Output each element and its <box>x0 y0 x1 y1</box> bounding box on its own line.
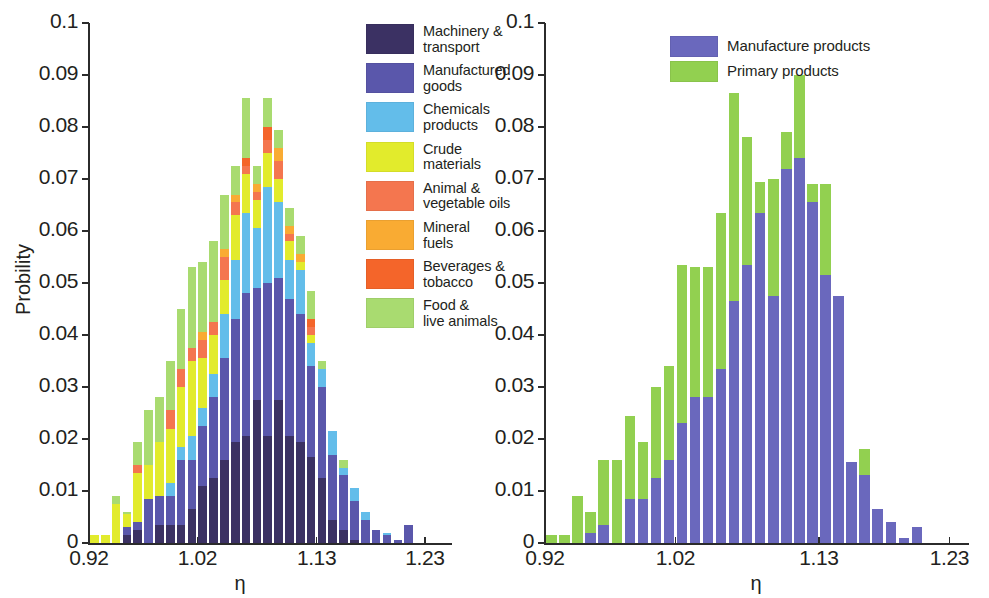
bar-segment <box>768 296 778 543</box>
bar-segment <box>188 348 197 361</box>
bar-segment <box>220 195 229 250</box>
left-y-tick-mark <box>82 178 89 180</box>
bar-segment <box>166 496 175 525</box>
bar-segment <box>755 213 765 543</box>
bar-segment <box>296 314 305 441</box>
bar-segment <box>350 488 359 501</box>
bar <box>263 98 272 543</box>
right-y-tick-mark <box>538 74 545 76</box>
bar-segment <box>383 533 392 536</box>
left-y-tick-label: 0.1 <box>0 9 78 33</box>
bar-segment <box>177 525 186 543</box>
legend-swatch <box>366 63 414 93</box>
right-x-tick-label: 1.23 <box>899 546 989 570</box>
bar-segment <box>209 478 218 543</box>
bar <box>794 75 804 543</box>
bar-segment <box>729 93 739 301</box>
bar-segment <box>328 431 337 454</box>
bar-segment <box>263 436 272 543</box>
right-x-tick-label: 1.13 <box>769 546 869 570</box>
legend-swatch <box>366 259 414 289</box>
bar-segment <box>253 288 262 400</box>
bar-segment <box>361 512 370 520</box>
bar <box>664 366 674 543</box>
bar-segment <box>242 293 251 436</box>
left-y-tick-mark <box>82 490 89 492</box>
left-y-tick-mark <box>82 386 89 388</box>
left-y-tick-label: 0.07 <box>0 165 78 189</box>
bar <box>231 166 240 543</box>
bar-segment <box>572 496 582 543</box>
chart-panel-right: 00.010.020.030.040.050.060.070.080.090.1… <box>480 0 989 598</box>
legend-item[interactable]: Primary products <box>670 61 839 82</box>
bar-segment <box>123 527 132 535</box>
bar-segment <box>112 496 121 504</box>
bar <box>404 525 413 543</box>
bar-segment <box>231 319 240 441</box>
chart-panel-left: 00.010.020.030.040.050.060.070.080.090.1… <box>0 0 480 598</box>
bar <box>612 460 622 543</box>
left-y-axis-title: Probility <box>12 225 35 335</box>
left-y-tick-mark <box>82 230 89 232</box>
bar-segment <box>166 483 175 496</box>
bar <box>703 267 713 543</box>
bar-segment <box>703 397 713 543</box>
bar <box>546 535 556 543</box>
bar-segment <box>231 195 240 203</box>
bar-segment <box>177 447 186 460</box>
bar-segment <box>296 262 305 270</box>
bar-segment <box>188 267 197 348</box>
bar-segment <box>220 249 229 257</box>
bar <box>859 449 869 543</box>
bar <box>166 361 175 543</box>
bar <box>307 291 316 543</box>
bar-segment <box>307 366 316 457</box>
legend-swatch <box>670 36 718 57</box>
left-y-tick-mark <box>82 334 89 336</box>
bar-segment <box>220 280 229 314</box>
bar <box>123 512 132 543</box>
bar <box>638 442 648 543</box>
bar-segment <box>598 460 608 525</box>
bar-segment <box>155 496 164 525</box>
bar-segment <box>209 397 218 478</box>
bar <box>886 522 896 543</box>
right-x-axis-line <box>544 543 969 545</box>
legend-item[interactable]: Manufacture products <box>670 36 870 57</box>
bar <box>781 132 791 543</box>
bar <box>253 166 262 543</box>
bar-segment <box>296 236 305 254</box>
bar-segment <box>872 509 882 543</box>
right-y-tick-mark <box>538 334 545 336</box>
figure-canvas: 00.010.020.030.040.050.060.070.080.090.1… <box>0 0 989 598</box>
bar-segment <box>361 520 370 543</box>
bar-segment <box>274 202 283 277</box>
right-x-tick-label: 0.92 <box>495 546 595 570</box>
right-y-tick-label: 0.03 <box>452 373 534 397</box>
bar-segment <box>833 296 843 543</box>
bar <box>625 416 635 543</box>
bar-segment <box>625 416 635 499</box>
bar-segment <box>198 408 207 426</box>
bar <box>585 512 595 543</box>
bar-segment <box>133 473 142 522</box>
bar-segment <box>274 179 283 202</box>
right-y-tick-label: 0.1 <box>452 9 534 33</box>
bar-segment <box>638 499 648 543</box>
bar-segment <box>188 436 197 459</box>
left-x-tick-label: 1.13 <box>267 546 367 570</box>
bar-segment <box>177 369 186 387</box>
bar-segment <box>307 327 316 335</box>
bar-segment <box>231 202 240 215</box>
bar-segment <box>231 215 240 259</box>
bar <box>101 535 110 543</box>
bar-segment <box>716 213 726 369</box>
bar-segment <box>274 130 283 148</box>
bar-segment <box>253 192 262 200</box>
bar-segment <box>123 535 132 543</box>
bar-segment <box>188 460 197 509</box>
bar-segment <box>133 465 142 473</box>
bar-segment <box>546 535 556 543</box>
bar <box>912 527 922 543</box>
right-y-tick-mark <box>538 282 545 284</box>
